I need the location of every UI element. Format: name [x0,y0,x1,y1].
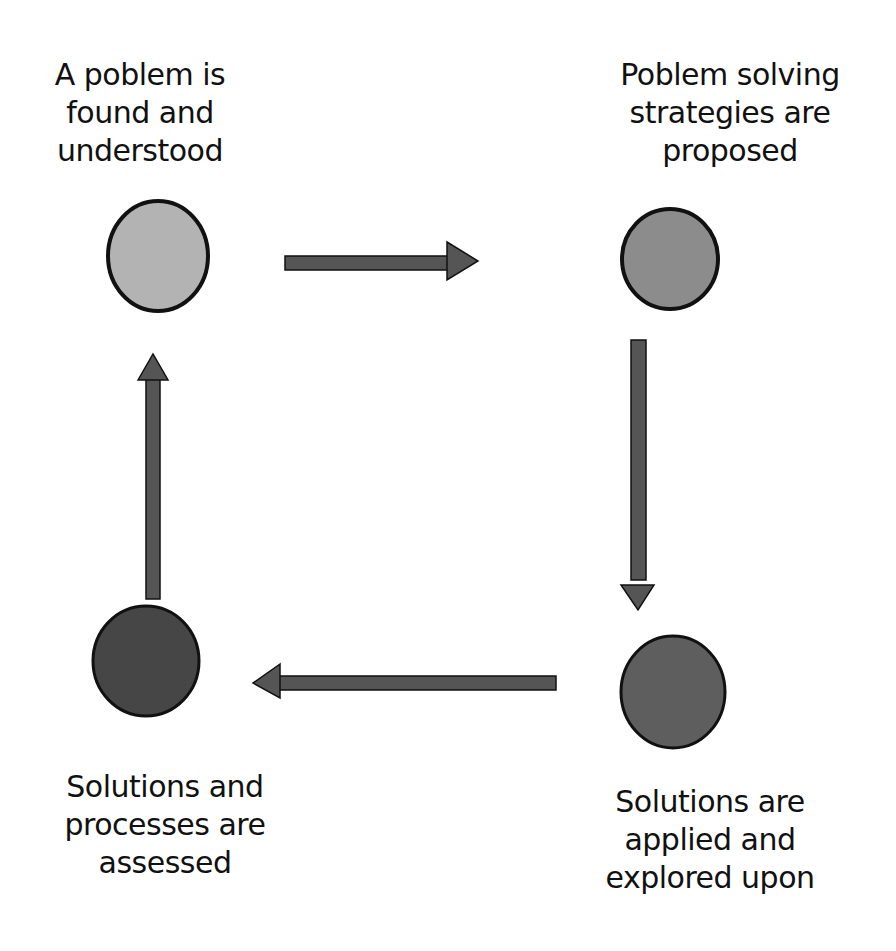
arrow-down-icon [621,340,654,610]
node-circle-problem-found [108,201,208,311]
node-circle-solutions-assessed [93,606,199,716]
arrow-up-icon [138,354,168,599]
arrow-right-icon [285,242,478,280]
node-circle-solutions-applied [621,636,725,748]
node-circle-strategies-proposed [622,209,718,309]
arrow-left-icon [253,664,556,698]
node-label-problem-found: A poblem is found and understood [20,56,260,170]
node-label-solutions-applied: Solutions are applied and explored upon [560,783,860,897]
node-label-solutions-assessed: Solutions and processes are assessed [15,768,315,882]
node-label-strategies-proposed: Poblem solving strategies are proposed [580,56,880,170]
